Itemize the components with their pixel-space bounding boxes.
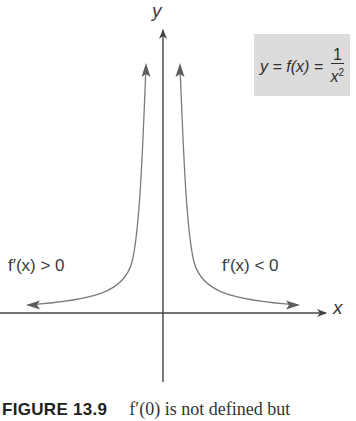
arrowhead-right-bottom <box>286 301 300 310</box>
annotation-right-derivative: f′(x) < 0 <box>222 256 279 276</box>
formula-denominator-exponent: 2 <box>339 67 345 78</box>
figure-caption: FIGURE 13.9f′(0) is not defined but <box>2 399 290 420</box>
formula-box: y = f(x) = 1x2 <box>254 34 350 96</box>
formula-denominator: x2 <box>331 64 345 86</box>
formula-lhs: y = f(x) = <box>260 58 328 75</box>
y-axis-label: y <box>152 0 162 22</box>
function-formula: y = f(x) = 1x2 <box>260 48 344 88</box>
arrowhead-left-bottom <box>26 301 40 310</box>
formula-fraction: 1x2 <box>331 46 345 86</box>
formula-numerator: 1 <box>331 46 345 64</box>
x-axis-label: x <box>333 297 343 319</box>
caption-text: f′(0) is not defined but <box>129 399 290 419</box>
formula-denominator-base: x <box>331 68 339 85</box>
caption-label: FIGURE 13.9 <box>2 400 107 419</box>
annotation-left-derivative: f′(x) > 0 <box>8 256 65 276</box>
